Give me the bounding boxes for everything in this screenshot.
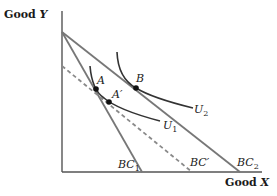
point-a xyxy=(93,86,99,92)
x-axis-title: Good X xyxy=(225,176,270,189)
consumer-choice-diagram: Good Y Good X A A′ B U1 U2 BC1 BC′ BC2 xyxy=(0,0,277,196)
budget-line-bc1 xyxy=(62,32,142,172)
indifference-curve-u2 xyxy=(117,52,193,108)
bc1-label: BC1 xyxy=(117,158,140,173)
bc2-label: BC2 xyxy=(236,156,259,171)
point-a-prime xyxy=(106,99,112,105)
point-b xyxy=(133,85,139,91)
u2-label: U2 xyxy=(194,103,208,118)
point-a-label: A xyxy=(96,74,105,87)
bc-prime-label: BC′ xyxy=(189,156,210,169)
point-a-prime-label: A′ xyxy=(111,88,123,101)
point-b-label: B xyxy=(135,72,144,85)
y-axis-title: Good Y xyxy=(4,8,49,21)
budget-line-bc2 xyxy=(62,32,240,172)
